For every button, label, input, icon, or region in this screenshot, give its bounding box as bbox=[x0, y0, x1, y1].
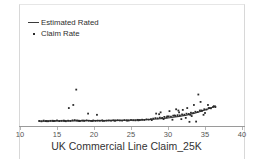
data-point bbox=[174, 115, 176, 117]
data-point bbox=[83, 120, 85, 122]
data-point bbox=[146, 118, 148, 120]
data-point bbox=[163, 118, 165, 120]
data-point bbox=[195, 121, 197, 123]
data-point bbox=[74, 119, 76, 121]
data-point bbox=[58, 120, 60, 122]
data-point bbox=[46, 120, 48, 122]
claim-rate-points bbox=[38, 89, 216, 123]
data-point bbox=[183, 114, 185, 116]
data-point bbox=[177, 110, 179, 112]
data-point bbox=[192, 112, 194, 114]
data-point bbox=[213, 105, 215, 107]
legend-item-estimated-rated: Estimated Rated bbox=[28, 17, 99, 28]
data-point bbox=[197, 94, 199, 96]
data-point bbox=[204, 112, 206, 114]
data-point bbox=[191, 115, 193, 117]
data-point bbox=[163, 116, 165, 118]
data-point bbox=[175, 108, 177, 110]
data-point bbox=[75, 89, 77, 91]
data-point bbox=[79, 120, 81, 122]
x-axis-ticks: 10152025303540 bbox=[0, 127, 253, 141]
data-point bbox=[158, 113, 160, 115]
legend-label-claim-rate: Claim Rate bbox=[41, 28, 80, 39]
data-point bbox=[151, 119, 153, 121]
data-point bbox=[72, 119, 74, 121]
data-point bbox=[170, 116, 172, 118]
data-point bbox=[179, 115, 181, 117]
data-point bbox=[92, 120, 94, 122]
data-point bbox=[52, 120, 54, 122]
data-point bbox=[61, 120, 63, 122]
data-point bbox=[203, 108, 205, 110]
data-point bbox=[72, 104, 74, 106]
data-point bbox=[96, 114, 98, 116]
data-point bbox=[108, 120, 110, 122]
data-point bbox=[157, 117, 159, 119]
x-axis-title: UK Commercial Line Claim_25K bbox=[0, 140, 253, 152]
data-point bbox=[114, 120, 116, 122]
data-point bbox=[181, 114, 183, 116]
data-point bbox=[67, 120, 69, 122]
data-point bbox=[206, 109, 208, 111]
data-point bbox=[130, 119, 132, 121]
data-point bbox=[49, 120, 51, 122]
data-point bbox=[121, 120, 123, 122]
data-point bbox=[190, 112, 192, 114]
data-point bbox=[141, 119, 143, 121]
data-point bbox=[160, 111, 162, 113]
data-point bbox=[69, 120, 71, 122]
data-point bbox=[180, 118, 182, 120]
data-point bbox=[177, 114, 179, 116]
data-point bbox=[41, 120, 43, 122]
data-point bbox=[189, 121, 191, 123]
data-point bbox=[135, 119, 137, 121]
data-point bbox=[193, 104, 195, 106]
data-point bbox=[102, 120, 104, 122]
data-point bbox=[95, 120, 97, 122]
chart-figure: 10152025303540 Estimated Rated Claim Rat… bbox=[0, 0, 253, 163]
data-point bbox=[155, 117, 157, 119]
data-point bbox=[87, 113, 89, 115]
data-point bbox=[123, 119, 125, 121]
data-point bbox=[86, 119, 88, 121]
data-point bbox=[97, 120, 99, 122]
data-point bbox=[64, 120, 66, 122]
data-point bbox=[182, 109, 184, 111]
data-point bbox=[197, 111, 199, 113]
data-point bbox=[88, 120, 90, 122]
data-point bbox=[186, 107, 188, 109]
data-point bbox=[209, 107, 211, 109]
data-point bbox=[159, 117, 161, 119]
chart-legend: Estimated Rated Claim Rate bbox=[28, 17, 99, 39]
data-point bbox=[110, 120, 112, 122]
data-point bbox=[155, 113, 157, 115]
dot-swatch-icon bbox=[28, 28, 39, 39]
data-point bbox=[56, 120, 58, 122]
data-point bbox=[148, 119, 150, 121]
data-point bbox=[186, 113, 188, 115]
data-point bbox=[178, 111, 180, 113]
data-point bbox=[119, 120, 121, 122]
data-point bbox=[106, 120, 108, 122]
data-point bbox=[143, 119, 145, 121]
data-point bbox=[200, 101, 202, 103]
data-point bbox=[126, 120, 128, 122]
legend-label-estimated-rated: Estimated Rated bbox=[41, 17, 99, 28]
data-point bbox=[203, 114, 205, 116]
data-point bbox=[166, 116, 168, 118]
line-swatch-icon bbox=[28, 22, 39, 23]
data-point bbox=[207, 104, 209, 106]
data-point bbox=[68, 107, 70, 109]
data-point bbox=[185, 117, 187, 119]
data-point bbox=[138, 119, 140, 121]
legend-item-claim-rate: Claim Rate bbox=[28, 28, 99, 39]
data-point bbox=[172, 119, 174, 121]
data-point bbox=[194, 111, 196, 113]
data-point bbox=[38, 120, 40, 122]
data-point bbox=[132, 119, 134, 121]
data-point bbox=[117, 119, 119, 121]
data-point bbox=[99, 120, 101, 122]
data-point bbox=[200, 110, 202, 112]
data-point bbox=[43, 120, 45, 122]
data-point bbox=[169, 110, 171, 112]
